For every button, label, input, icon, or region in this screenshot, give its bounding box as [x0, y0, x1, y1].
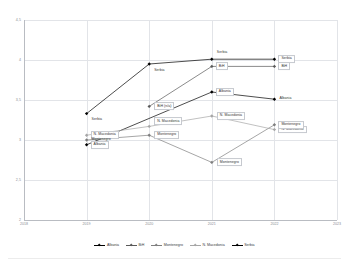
point-label: Montenegro: [154, 131, 179, 139]
point-label: Serbia: [153, 68, 165, 74]
point-label: Montenegro: [217, 158, 242, 166]
legend-marker-icon: [126, 243, 137, 247]
data-point-marker: [148, 134, 151, 137]
x-tick-label: 2022: [270, 222, 278, 226]
data-point-marker: [148, 105, 151, 108]
legend-item-bih[interactable]: BiH: [126, 243, 144, 247]
data-point-marker: [210, 65, 213, 68]
point-label: N. Macedonia: [217, 112, 245, 120]
y-tick-label: 3,5: [16, 98, 21, 102]
x-tick-label: 2021: [208, 222, 216, 226]
data-point-marker: [273, 128, 276, 131]
data-point-marker: [85, 138, 88, 141]
x-axis-line: [24, 220, 337, 221]
data-point-marker: [210, 161, 213, 164]
point-label: Montenegro: [91, 137, 112, 143]
y-tick-label: 3: [19, 138, 21, 142]
plot-area: 22,533,544,5 201820192020202120222023 Se…: [24, 20, 337, 220]
point-label: BiH: [278, 62, 290, 70]
legend-label: N. Macedonia: [202, 243, 224, 247]
legend-label: BiH: [138, 243, 144, 247]
point-label: Albania: [278, 96, 292, 102]
y-tick-label: 4: [19, 58, 21, 62]
legend-item-serbia[interactable]: Serbia: [232, 243, 255, 247]
data-point-marker: [85, 143, 88, 146]
point-label: Serbia: [91, 117, 103, 123]
point-label: Albania: [216, 88, 234, 96]
chart-legend: AlbaniaBiHMontenegroN. MacedoniaSerbia: [0, 243, 349, 247]
series-line-bih: [149, 66, 274, 106]
data-point-marker: [210, 90, 213, 93]
x-tick-label: 2018: [20, 222, 28, 226]
y-tick-label: 2,5: [16, 178, 21, 182]
data-point-marker: [273, 98, 276, 101]
data-point-marker: [273, 65, 276, 68]
data-point-marker: [210, 58, 213, 61]
data-point-marker: [210, 114, 213, 117]
footer-divider: [8, 258, 341, 259]
point-label: Montenegro: [278, 121, 303, 129]
legend-marker-icon: [232, 243, 243, 247]
legend-label: Albania: [107, 243, 119, 247]
legend-label: Serbia: [244, 243, 254, 247]
legend-item-albania[interactable]: Albania: [94, 243, 119, 247]
x-tick-label: 2019: [83, 222, 91, 226]
point-label: N. Macedonia: [154, 117, 182, 125]
legend-marker-icon: [190, 243, 201, 247]
data-point-marker: [85, 134, 88, 137]
gridline-vertical: [337, 20, 338, 220]
chart-screenshot: 22,533,544,5 201820192020202120222023 Se…: [0, 0, 349, 264]
legend-label: Montenegro: [164, 243, 183, 247]
legend-item-n-macedonia[interactable]: N. Macedonia: [190, 243, 225, 247]
y-tick-label: 4,5: [16, 18, 21, 22]
point-label: BiH: [216, 62, 228, 70]
point-label: BiH (n/a): [154, 102, 174, 110]
x-tick-label: 2020: [145, 222, 153, 226]
x-tick-label: 2023: [333, 222, 341, 226]
data-point-marker: [273, 123, 276, 126]
legend-marker-icon: [94, 243, 105, 247]
data-point-marker: [148, 125, 151, 128]
legend-item-montenegro[interactable]: Montenegro: [151, 243, 183, 247]
data-point-marker: [273, 58, 276, 61]
point-label: Serbia: [216, 50, 228, 56]
legend-marker-icon: [151, 243, 162, 247]
